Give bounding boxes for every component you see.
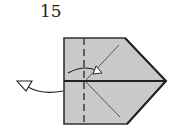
turn-over-arrow (28, 87, 63, 92)
turn-over-arrow-head (17, 81, 32, 91)
origami-diagram (0, 0, 181, 138)
